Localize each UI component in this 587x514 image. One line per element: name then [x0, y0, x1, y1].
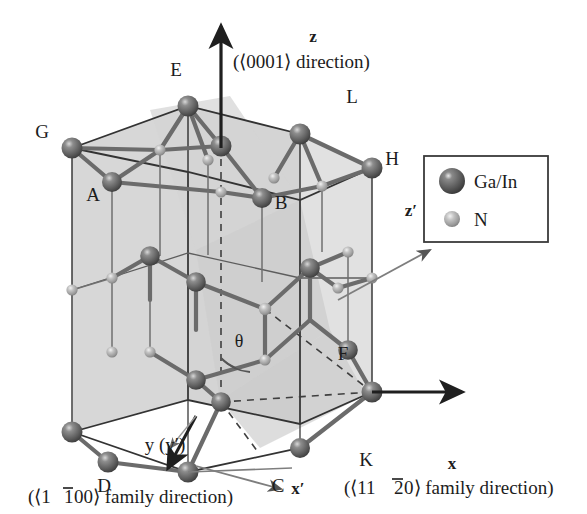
- vertex-label-K: K: [359, 449, 373, 470]
- atom-cation-A: [102, 172, 122, 192]
- atom-cation-H: [362, 158, 383, 179]
- vertex-label-L: L: [346, 86, 358, 107]
- vertex-label-E: E: [170, 59, 182, 80]
- atom-cation-G: [62, 138, 83, 159]
- atom-cation-L: [290, 124, 311, 145]
- atom-anion-14: [259, 303, 271, 315]
- vertex-label-B: B: [275, 192, 288, 213]
- legend-n-sphere-icon: [444, 211, 460, 227]
- atom-anion-3: [215, 186, 226, 197]
- vertex-label-F: F: [338, 343, 349, 364]
- atom-anion-11: [144, 346, 155, 357]
- x-axis-label: x: [448, 454, 457, 473]
- atom-anion-2: [202, 154, 213, 165]
- theta-symbol: θ: [235, 331, 244, 351]
- y-axis-label: y (y′): [145, 434, 186, 456]
- atom-anion-6: [106, 272, 117, 283]
- vertex-label-C: C: [272, 475, 285, 496]
- atom-cation-mid-right: [300, 258, 320, 278]
- y-direction-bar-char: 1: [64, 486, 74, 507]
- legend-label-ga-in: Ga/In: [474, 171, 518, 192]
- atom-anion-13: [259, 354, 270, 365]
- x-direction-text-a: (⟨11: [344, 477, 376, 499]
- atom-cation-center: [186, 272, 206, 292]
- vertex-label-G: G: [35, 121, 49, 142]
- atom-anion-12: [106, 346, 117, 357]
- atom-cation-lower-left: [186, 370, 206, 390]
- atom-cation-B: [252, 188, 272, 208]
- atom-anion-7: [66, 284, 77, 295]
- y-direction-text-group: (⟨1 1 00⟩ family direction): [28, 486, 233, 508]
- vertex-label-A: A: [86, 184, 100, 205]
- atom-cation-bottom-G: [62, 422, 83, 443]
- figure-root: E L G H A B F D C K θ z (⟨0001⟩ directio…: [0, 0, 587, 514]
- crystal-structure-figure: E L G H A B F D C K θ z (⟨0001⟩ directio…: [0, 0, 587, 514]
- legend: Ga/In N: [424, 156, 548, 242]
- atom-cation-D: [98, 452, 119, 473]
- legend-ga-in-sphere-icon: [439, 168, 465, 194]
- x-prime-label: x′: [291, 479, 304, 498]
- atom-anion-1: [154, 144, 165, 155]
- atom-cation-mid-left: [140, 246, 160, 266]
- x-direction-bar-char: 2: [394, 477, 404, 498]
- z-prime-label: z′: [405, 201, 417, 220]
- atom-cation-bottom-front-right: [290, 438, 310, 458]
- atom-anion-4: [268, 172, 279, 183]
- x-direction-text-b: 0⟩ family direction): [404, 477, 553, 499]
- z-direction-text: (⟨0001⟩ direction): [233, 51, 370, 73]
- y-direction-text-b: 00⟩ family direction): [74, 486, 233, 508]
- x-direction-text-group: (⟨11 2 0⟩ family direction): [344, 477, 553, 499]
- atom-anion-5: [316, 180, 327, 191]
- atom-anion-8: [342, 246, 353, 257]
- legend-label-n: N: [474, 209, 488, 230]
- atom-anion-9: [332, 282, 343, 293]
- z-axis-label: z: [309, 27, 317, 46]
- atom-cation-E: [178, 96, 199, 117]
- y-direction-text-a: (⟨1: [28, 486, 51, 508]
- atom-cation-bottom-center: [211, 392, 231, 412]
- vertex-label-H: H: [385, 148, 399, 169]
